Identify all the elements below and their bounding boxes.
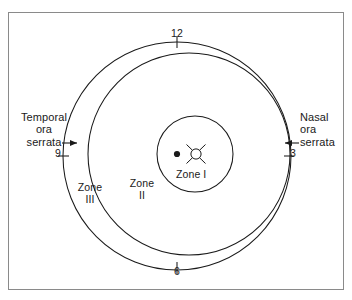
zone-iii-line1: Zone (72, 182, 108, 194)
vessel-lower-right (199, 158, 205, 164)
vessel-upper-right (199, 145, 205, 151)
nasal-ora-serrata-label: Nasal ora serrata (300, 111, 348, 148)
clock-hour-3: 3 (290, 148, 296, 160)
optic-disc-group (187, 145, 206, 164)
zone-i-label: Zone I (176, 169, 206, 181)
ora-serrata-arrows (62, 140, 299, 146)
nasal-ora-line2: ora (300, 123, 348, 135)
clock-hour-12: 12 (171, 28, 183, 40)
vessel-lower-left (187, 158, 193, 164)
zone-ii-line1: Zone (124, 178, 160, 190)
temporal-ora-line3: serrata (8, 136, 80, 148)
vessel-upper-left (187, 145, 193, 151)
nasal-ora-line1: Nasal (300, 111, 348, 123)
zone-iii-label: Zone III (72, 182, 108, 206)
zone-ii-line2: II (124, 190, 160, 202)
retinal-zones-drawing (0, 0, 352, 300)
clock-hour-6: 6 (174, 266, 180, 278)
temporal-ora-line1: Temporal (8, 111, 80, 123)
temporal-ora-line2: ora (8, 123, 80, 135)
retinal-zones-figure: 12 6 9 3 Temporal ora serrata Nasal ora … (0, 0, 352, 300)
clock-hour-9: 9 (55, 148, 61, 160)
zone-ii-outer-circle (88, 53, 290, 255)
temporal-ora-serrata-label: Temporal ora serrata (8, 111, 80, 148)
macula-dot (174, 151, 180, 157)
nasal-arrow-left (285, 140, 299, 146)
zone-iii-line2: III (72, 194, 108, 206)
zone-ii-label: Zone II (124, 178, 160, 202)
nasal-ora-line3: serrata (300, 136, 348, 148)
